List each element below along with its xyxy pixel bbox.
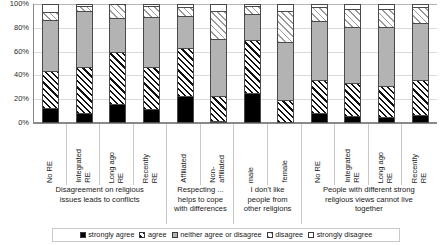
bar-segment-neither-agree-or-disagree (245, 14, 260, 40)
category-cell: Recently RE (402, 124, 436, 185)
legend-swatch-strongly-agree (80, 232, 86, 238)
bar-slot (202, 4, 236, 123)
bar-segment-agree (312, 80, 327, 113)
group-cell: Respecting ... helps to cope with differ… (167, 184, 234, 224)
category-cell: Affiliated (167, 124, 201, 185)
bar-slot (269, 4, 303, 123)
stacked-bar[interactable] (378, 4, 395, 123)
bar-slot (336, 4, 370, 123)
bar-segment-agree (144, 67, 159, 109)
bar-segment-neither-agree-or-disagree (345, 27, 360, 83)
bar-segment-agree (43, 71, 58, 108)
stacked-bar[interactable] (244, 4, 261, 123)
y-axis-tick-0: 0% (18, 119, 29, 127)
bar-segment-strongly-agree (312, 113, 327, 122)
category-cell: Integrated RE (335, 124, 369, 185)
group-label: Disagreement on religious issues leads t… (56, 185, 144, 204)
bar-segment-strongly-agree (379, 117, 394, 122)
bar-segment-disagree (345, 9, 360, 28)
bar-segment-strongly-agree (245, 93, 260, 122)
stacked-bar[interactable] (311, 4, 328, 123)
stacked-bar[interactable] (143, 4, 160, 123)
legend-label: agree (148, 231, 167, 239)
y-axis-tick-60: 60% (14, 48, 29, 56)
bar-slot (235, 4, 269, 123)
bar-slot (135, 4, 169, 123)
stacked-bar[interactable] (42, 4, 59, 123)
bar-segment-disagree (211, 11, 226, 39)
y-axis-tick-100: 100% (10, 0, 29, 8)
bar-slot (68, 4, 102, 123)
category-label: female (280, 159, 289, 183)
bar-segment-strongly-agree (178, 96, 193, 122)
bar-segment-agree (413, 80, 428, 115)
bar-slot (403, 4, 437, 123)
category-cell: No RE (33, 124, 67, 185)
category-cell: Non- affiliated (201, 124, 235, 185)
bar-segment-disagree (379, 9, 394, 28)
bar-segment-agree (178, 48, 193, 96)
group-cell: People with different strong religious v… (302, 184, 436, 224)
bar-segment-neither-agree-or-disagree (144, 17, 159, 67)
group-cell: I don't like people from other religions (235, 184, 302, 224)
bar-segment-agree (110, 52, 125, 105)
category-cell: female (268, 124, 302, 185)
bar-segment-strongly-disagree (43, 5, 58, 12)
stacked-bar[interactable] (177, 4, 194, 123)
category-cell: No RE (302, 124, 336, 185)
category-label: Integrated RE (343, 148, 361, 183)
group-label: Respecting ... helps to cope with differ… (174, 185, 227, 214)
bar-segment-strongly-agree (345, 116, 360, 122)
bar-segment-disagree (110, 5, 125, 18)
category-cell: Recently RE (134, 124, 168, 185)
category-label: Recently RE (410, 153, 428, 183)
group-label: I don't like people from other religions (244, 185, 292, 214)
y-axis-tick-80: 80% (14, 24, 29, 32)
stacked-bar[interactable] (344, 4, 361, 123)
group-label: People with different strong religious v… (323, 185, 415, 214)
category-label: male (246, 166, 255, 183)
category-cell: male (235, 124, 269, 185)
y-axis-tick-40: 40% (14, 71, 29, 79)
legend-item-agree[interactable]: agree (139, 231, 166, 239)
legend-swatch-agree (139, 232, 145, 238)
legend-item-strongly-agree[interactable]: strongly agree (80, 231, 135, 239)
bar-slot (168, 4, 202, 123)
group-labels: Disagreement on religious issues leads t… (33, 184, 437, 224)
bar-segment-disagree (43, 12, 58, 20)
bar-segment-neither-agree-or-disagree (278, 42, 293, 99)
bar-segment-disagree (178, 7, 193, 15)
stacked-bar[interactable] (412, 4, 429, 123)
legend-label: strongly agree (88, 231, 134, 239)
bar-segment-agree (345, 83, 360, 116)
stacked-bar[interactable] (76, 4, 93, 123)
category-label: No RE (45, 160, 54, 183)
bar-segment-strongly-agree (413, 115, 428, 122)
category-label: Long ago RE (107, 151, 125, 183)
category-label: Integrated RE (74, 148, 92, 183)
chart-legend: strongly agreeagreeneither agree or disa… (52, 228, 400, 242)
category-labels: No REIntegrated RELong ago RERecently RE… (33, 123, 437, 184)
bar-segment-agree (379, 86, 394, 118)
category-label: Non- affiliated (208, 154, 226, 183)
bar-segment-neither-agree-or-disagree (110, 18, 125, 52)
stacked-bar[interactable] (210, 4, 227, 123)
bar-slot (303, 4, 337, 123)
bar-segment-strongly-agree (144, 109, 159, 122)
y-axis-labels: 100%80%60%40%20%0% (0, 0, 31, 127)
bar-segment-disagree (413, 7, 428, 22)
category-label: Affiliated (179, 153, 188, 183)
legend-swatch-strongly-disagree (308, 232, 314, 238)
legend-item-strongly-disagree[interactable]: strongly disagree (308, 231, 372, 239)
bar-segment-disagree (278, 11, 293, 43)
bar-segment-disagree (245, 6, 260, 14)
stacked-bar[interactable] (109, 4, 126, 123)
stacked-bar[interactable] (277, 4, 294, 123)
legend-item-neither-agree-or-disagree[interactable]: neither agree or disagree (172, 231, 262, 239)
bar-slot (370, 4, 404, 123)
legend-item-disagree[interactable]: disagree (267, 231, 304, 239)
bar-series-container (34, 4, 437, 123)
bar-segment-disagree (144, 6, 159, 17)
bar-segment-neither-agree-or-disagree (43, 20, 58, 70)
y-axis-tick-20: 20% (14, 95, 29, 103)
